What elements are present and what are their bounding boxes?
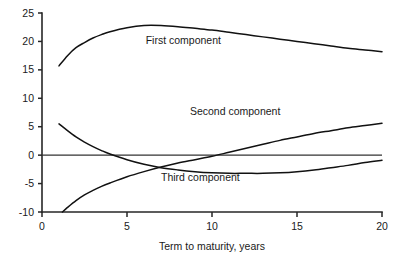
x-tick-label: 20 xyxy=(376,220,388,232)
y-tick-label: 25 xyxy=(22,7,34,19)
chart-figure: -10-50510152025 05101520 First component… xyxy=(0,0,395,257)
second-component-curve xyxy=(59,124,382,174)
y-tick-label: 0 xyxy=(28,149,34,161)
y-tick-label: 10 xyxy=(22,92,34,104)
x-tick-label: 0 xyxy=(39,220,45,232)
y-tick-label: -10 xyxy=(19,206,34,218)
y-tick-label: 15 xyxy=(22,63,34,75)
third-component-label: Third component xyxy=(161,171,240,183)
y-tick-label: -5 xyxy=(25,177,34,189)
second-component-label: Second component xyxy=(190,105,281,117)
principal-components-line-chart: -10-50510152025 05101520 First component… xyxy=(0,0,395,257)
x-tick-label: 10 xyxy=(206,220,218,232)
x-tick-label: 15 xyxy=(291,220,303,232)
first-component-label: First component xyxy=(146,34,221,46)
x-axis-title: Term to maturity, years xyxy=(159,240,265,252)
y-axis-tick-labels: -10-50510152025 xyxy=(19,7,34,218)
x-tick-label: 5 xyxy=(124,220,130,232)
y-tick-label: 5 xyxy=(28,120,34,132)
y-tick-label: 20 xyxy=(22,35,34,47)
x-axis-tick-labels: 05101520 xyxy=(39,220,388,232)
